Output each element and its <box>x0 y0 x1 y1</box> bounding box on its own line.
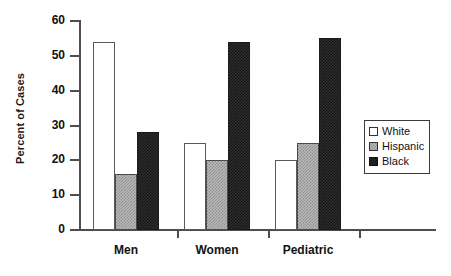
legend-label: Hispanic <box>382 141 424 152</box>
y-tick-label: 0 <box>58 222 65 236</box>
legend-swatch-black-icon <box>369 157 378 166</box>
legend-label: Black <box>382 156 409 167</box>
bar-chart: Percent of Cases 6050403020100 MenWomenP… <box>0 0 451 276</box>
legend-item-black: Black <box>369 154 424 169</box>
legend-item-white: White <box>369 124 424 139</box>
x-tick-mark <box>359 230 361 238</box>
x-tick-mark <box>268 230 270 238</box>
bar-group-pediatric <box>275 21 341 230</box>
bar-pediatric-white <box>275 160 297 230</box>
legend-swatch-white-icon <box>369 127 378 136</box>
bar-women-white <box>184 143 206 230</box>
y-tick-mark <box>70 159 79 161</box>
bar-men-black <box>137 132 159 230</box>
y-tick-label: 20 <box>52 152 65 166</box>
bar-pediatric-black <box>319 38 341 230</box>
y-tick-label: 50 <box>52 48 65 62</box>
x-axis-label-pediatric: Pediatric <box>263 243 353 257</box>
x-axis-label-men: Men <box>81 243 171 257</box>
legend-item-hispanic: Hispanic <box>369 139 424 154</box>
x-axis-label-women: Women <box>172 243 262 257</box>
y-tick-label: 30 <box>52 118 65 132</box>
y-tick-mark <box>70 229 79 231</box>
y-tick-mark <box>70 55 79 57</box>
legend-label: White <box>382 126 410 137</box>
bar-women-hispanic <box>206 160 228 230</box>
y-tick-mark <box>70 20 79 22</box>
bar-women-black <box>228 42 250 230</box>
y-axis-title-text: Percent of Cases <box>14 73 26 164</box>
x-tick-mark <box>177 230 179 238</box>
bar-pediatric-hispanic <box>297 143 319 230</box>
y-axis-title: Percent of Cases <box>8 0 32 236</box>
y-tick-mark <box>70 125 79 127</box>
legend: WhiteHispanicBlack <box>364 120 430 174</box>
y-tick-label: 40 <box>52 83 65 97</box>
y-tick-mark <box>70 194 79 196</box>
y-tick-label: 10 <box>52 187 65 201</box>
bar-group-women <box>184 21 250 230</box>
bar-men-white <box>93 42 115 230</box>
y-tick-label: 60 <box>52 13 65 27</box>
bar-group-men <box>93 21 159 230</box>
y-tick-mark <box>70 90 79 92</box>
bar-men-hispanic <box>115 174 137 230</box>
legend-swatch-hispanic-icon <box>369 142 378 151</box>
